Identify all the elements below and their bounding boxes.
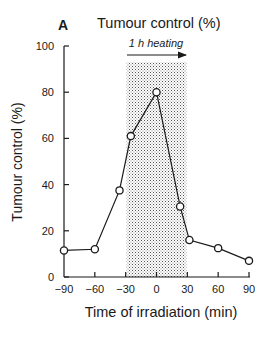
data-point	[91, 246, 98, 253]
data-point	[127, 132, 134, 139]
data-point	[116, 187, 123, 194]
data-point	[215, 245, 222, 252]
data-point	[177, 203, 184, 210]
x-tick-label: −60	[85, 283, 104, 295]
heating-annotation: 1 h heating	[129, 37, 184, 49]
y-tick-label: 60	[42, 132, 54, 144]
data-point	[186, 236, 193, 243]
data-point	[245, 257, 252, 264]
x-tick-label: −30	[116, 283, 135, 295]
chart-title: Tumour control (%)	[97, 15, 221, 31]
x-axis-label: Time of irradiation (min)	[85, 304, 238, 320]
tumour-control-chart: 020406080100 −90−60−300306090 1 h heatin…	[0, 0, 265, 337]
x-tick-label: 0	[153, 283, 159, 295]
y-tick-label: 20	[42, 225, 54, 237]
y-tick-label: 100	[36, 40, 54, 52]
panel-label: A	[58, 17, 68, 33]
data-point	[60, 247, 67, 254]
x-tick-label: −90	[55, 283, 74, 295]
x-tick-label: 60	[212, 283, 224, 295]
y-axis-label: Tumour control (%)	[9, 102, 25, 221]
y-tick-label: 80	[42, 86, 54, 98]
y-tick-label: 0	[48, 271, 54, 283]
x-tick-label: 30	[181, 283, 193, 295]
data-point	[153, 89, 160, 96]
y-tick-label: 40	[42, 179, 54, 191]
x-tick-label: 90	[243, 283, 255, 295]
